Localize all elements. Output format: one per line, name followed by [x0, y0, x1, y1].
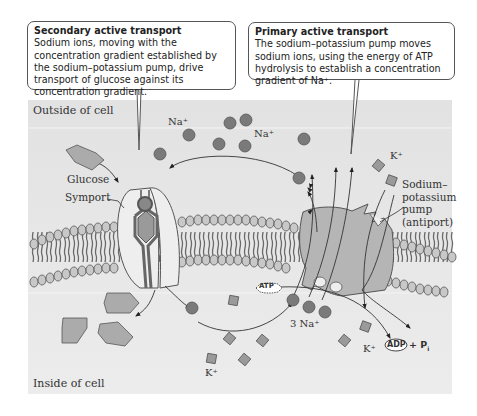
k-inside-label-1: K⁺	[205, 367, 218, 378]
plus-pi-text: + P	[409, 339, 427, 350]
symport-label: Symport	[65, 191, 110, 203]
secondary-transport-callout: Secondary active transport Sodium ions, …	[27, 21, 236, 90]
na-outside-label-2: Na⁺	[254, 128, 274, 139]
primary-transport-body: The sodium–potassium pump moves sodium i…	[255, 38, 441, 86]
k-inside-label-2: K⁺	[363, 343, 376, 354]
phosphate-label: + Pi	[409, 339, 429, 352]
k-outside-label: K⁺	[390, 150, 403, 161]
adp-label: ADP	[387, 340, 406, 349]
outside-of-cell-label: Outside of cell	[33, 104, 114, 117]
pump-label-line-1: Sodium–	[402, 178, 456, 191]
primary-transport-callout: Primary active transport The sodium–pota…	[248, 22, 455, 80]
pump-label-line-3: pump	[402, 203, 456, 216]
glucose-label: Glucose	[67, 173, 109, 185]
three-na-label: 3 Na⁺	[290, 318, 320, 329]
pump-label-line-4: (antiport)	[402, 216, 456, 229]
secondary-transport-title: Secondary active transport	[34, 25, 230, 37]
pump-label-line-2: potassium	[402, 191, 456, 204]
atp-label: ATP	[259, 282, 274, 290]
na-outside-label-1: Na⁺	[168, 116, 188, 127]
sodium-potassium-pump-label: Sodium– potassium pump (antiport)	[402, 178, 456, 228]
pi-subscript: i	[427, 345, 429, 352]
inside-of-cell-label: Inside of cell	[33, 377, 105, 390]
secondary-transport-body: Sodium ions, moving with the concentrati…	[34, 37, 217, 97]
primary-transport-title: Primary active transport	[255, 26, 449, 38]
